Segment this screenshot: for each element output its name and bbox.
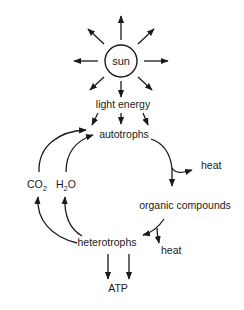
light-to-autotrophs-arrow-left-icon xyxy=(92,113,98,125)
atp-label: ATP xyxy=(108,282,128,294)
sun-label: sun xyxy=(112,55,130,67)
energy-flow-diagram: sun light energy autotrophs heat organic… xyxy=(0,0,244,310)
light-to-autotrophs-arrow-right-icon xyxy=(143,113,148,125)
h2o-to-autotrophs-arrow-icon xyxy=(66,135,93,172)
organic-heat-arrow-icon xyxy=(157,228,159,243)
heat-label-1: heat xyxy=(201,159,222,171)
autotrophs-label: autotrophs xyxy=(99,128,149,140)
ray-upleft-arrow-icon xyxy=(88,29,104,44)
heat-label-2: heat xyxy=(161,244,182,256)
organic-to-heterotrophs-arrow-icon xyxy=(143,219,164,235)
autotrophs-to-organic-arrow-icon xyxy=(151,139,172,186)
sun-node: sun xyxy=(105,45,137,77)
co2-label: CO2 xyxy=(27,178,47,193)
heterotrophs-to-co2-arrow-icon xyxy=(38,197,77,243)
ray-downright-arrow-icon xyxy=(138,77,152,90)
heterotrophs-label: heterotrophs xyxy=(78,236,137,248)
ray-upright-arrow-icon xyxy=(138,29,154,44)
light-energy-label: light energy xyxy=(96,98,151,110)
heterotrophs-to-h2o-arrow-icon xyxy=(65,197,82,236)
ray-downleft-arrow-icon xyxy=(90,77,104,90)
organic-compounds-label: organic compounds xyxy=(139,199,231,211)
h2o-label: H2O xyxy=(56,178,76,193)
co2-to-autotrophs-arrow-icon xyxy=(39,130,86,172)
autotrophs-heat-arrow-icon xyxy=(172,168,192,172)
